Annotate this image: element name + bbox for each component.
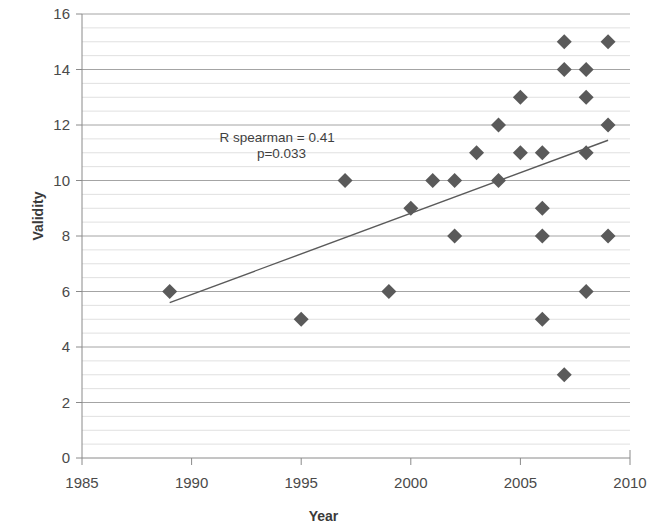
data-point-diamond bbox=[535, 145, 550, 160]
y-tick-label: 12 bbox=[53, 116, 70, 133]
x-tick-label: 2000 bbox=[394, 474, 427, 491]
data-point-diamond bbox=[162, 284, 177, 299]
data-point-diamond bbox=[491, 118, 506, 133]
y-tick-label: 14 bbox=[53, 61, 70, 78]
data-point-diamond bbox=[535, 312, 550, 327]
plot-area: 0246810121416 198519901995200020052010 R… bbox=[0, 0, 647, 530]
data-point-diamond bbox=[557, 62, 572, 77]
x-tick-label: 2005 bbox=[504, 474, 537, 491]
data-point-diamond bbox=[601, 118, 616, 133]
data-point-diamond bbox=[535, 201, 550, 216]
data-point-diamond bbox=[557, 34, 572, 49]
x-tick-label: 1990 bbox=[175, 474, 208, 491]
x-tick-label: 2010 bbox=[613, 474, 646, 491]
data-point-diamond bbox=[535, 229, 550, 244]
data-point-diamond bbox=[579, 145, 594, 160]
data-point-diamond bbox=[513, 145, 528, 160]
stat-annotations: R spearman = 0.41p=0.033 bbox=[219, 130, 334, 162]
data-point-diamond bbox=[601, 229, 616, 244]
y-tick-label: 16 bbox=[53, 5, 70, 22]
y-tick-label: 10 bbox=[53, 172, 70, 189]
y-axis-ticks: 0246810121416 bbox=[53, 5, 82, 466]
annotation-label: R spearman = 0.41 bbox=[219, 130, 334, 145]
data-point-diamond bbox=[557, 367, 572, 382]
data-point-diamond bbox=[447, 173, 462, 188]
x-tick-label: 1985 bbox=[65, 474, 98, 491]
data-point-diamond bbox=[579, 90, 594, 105]
data-point-diamond bbox=[381, 284, 396, 299]
data-point-diamond bbox=[447, 229, 462, 244]
data-point-diamond bbox=[601, 34, 616, 49]
y-tick-label: 6 bbox=[62, 283, 70, 300]
y-tick-label: 4 bbox=[62, 338, 70, 355]
data-point-diamond bbox=[491, 173, 506, 188]
trendline bbox=[170, 140, 608, 302]
data-point-diamond bbox=[425, 173, 440, 188]
x-tick-label: 1995 bbox=[285, 474, 318, 491]
annotation-label: p=0.033 bbox=[257, 146, 306, 161]
data-point-diamond bbox=[513, 90, 528, 105]
y-tick-label: 2 bbox=[62, 394, 70, 411]
data-point-diamond bbox=[338, 173, 353, 188]
scatter-chart-figure: Validity Year 0246810121416 198519901995… bbox=[0, 0, 647, 530]
trendline-segment bbox=[170, 140, 608, 302]
y-tick-label: 0 bbox=[62, 449, 70, 466]
data-point-diamond bbox=[403, 201, 418, 216]
data-point-diamond bbox=[579, 62, 594, 77]
data-point-diamond bbox=[579, 284, 594, 299]
data-point-diamond bbox=[469, 145, 484, 160]
y-tick-label: 8 bbox=[62, 227, 70, 244]
x-axis-ticks: 198519901995200020052010 bbox=[65, 458, 646, 491]
data-point-diamond bbox=[294, 312, 309, 327]
